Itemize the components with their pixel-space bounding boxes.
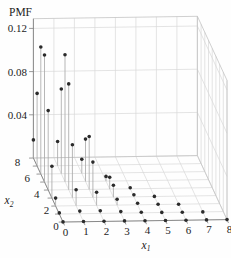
data-point-dot — [82, 220, 86, 224]
data-point-dot — [61, 220, 65, 224]
data-point-dot — [115, 197, 119, 201]
data-point-dot — [67, 82, 71, 86]
data-point-dot — [50, 165, 54, 169]
data-point-dot — [143, 219, 147, 223]
data-point-dot — [156, 203, 160, 207]
x1-tick-label: 8 — [227, 223, 231, 235]
x2-tick-label: 8 — [15, 156, 21, 168]
data-point-dot — [177, 202, 181, 206]
pmf-3d-stem-figure: 0.040.080.1201234567802468PMFx2x1 — [0, 0, 231, 258]
data-point-dot — [71, 143, 75, 147]
data-point-dot — [80, 158, 84, 162]
data-point-dot — [108, 176, 112, 180]
data-point-dot — [164, 219, 168, 223]
data-point-dot — [63, 53, 67, 57]
data-point-dot — [39, 45, 43, 49]
data-point-dot — [184, 218, 188, 222]
data-point-dot — [136, 202, 140, 206]
data-point-dot — [95, 190, 99, 194]
data-point-dot — [119, 210, 123, 214]
data-point-dot — [160, 211, 164, 215]
x1-tick-label: 0 — [63, 226, 69, 238]
data-point-dot — [58, 211, 62, 215]
data-point-dot — [56, 140, 60, 144]
x2-tick-label: 6 — [24, 172, 30, 184]
x1-tick-label: 2 — [104, 225, 110, 237]
data-point-dot — [91, 160, 95, 164]
pmf-axis-title: PMF — [9, 6, 32, 18]
data-point-dot — [78, 209, 82, 213]
data-point-dot — [104, 175, 108, 179]
data-point-dot — [35, 92, 39, 96]
data-point-dot — [87, 135, 91, 139]
data-point-dot — [74, 188, 78, 192]
x1-tick-label: 5 — [165, 224, 171, 236]
data-point-dot — [123, 219, 127, 223]
x2-tick-label: 4 — [34, 188, 40, 200]
data-point-dot — [54, 196, 58, 200]
pmf-3d-stem-plot: 0.040.080.1201234567802468PMFx2x1 — [0, 0, 231, 258]
data-point-dot — [153, 195, 157, 199]
x1-tick-label: 4 — [145, 224, 151, 236]
x2-tick-label: 2 — [44, 204, 50, 216]
data-point-dot — [99, 209, 103, 213]
x1-tick-label: 1 — [83, 225, 89, 237]
data-point-dot — [140, 211, 144, 215]
data-point-dot — [46, 109, 50, 113]
data-point-dot — [205, 218, 209, 222]
x1-tick-label: 7 — [206, 223, 212, 235]
data-point-dot — [112, 184, 116, 188]
data-point-dot — [102, 219, 106, 223]
data-point-dot — [181, 210, 185, 214]
data-point-dot — [201, 210, 205, 214]
x1-tick-label: 3 — [124, 225, 130, 237]
x1-axis-title: x1 — [141, 239, 151, 254]
z-axis-tick-label: 0.08 — [8, 66, 28, 78]
x2-tick-label: 0 — [53, 220, 59, 232]
data-point-dot — [84, 137, 88, 141]
x2-axis-title: x2 — [4, 194, 14, 209]
z-axis-tick-label: 0.12 — [8, 22, 27, 34]
data-point-dot — [43, 53, 47, 57]
data-point-dot — [225, 218, 229, 222]
data-point-dot — [32, 138, 36, 142]
x1-tick-label: 6 — [186, 224, 192, 236]
z-axis-tick-label: 0.04 — [8, 109, 28, 121]
data-point-dot — [60, 87, 64, 91]
data-point-dot — [128, 186, 132, 190]
data-point-dot — [132, 193, 136, 197]
